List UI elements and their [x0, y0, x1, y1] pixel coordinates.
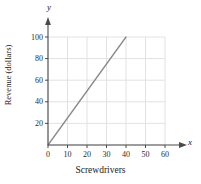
y-tick-label-40: 40: [22, 98, 43, 106]
x-axis-symbol: x: [188, 137, 192, 147]
y-tick-label-60: 60: [22, 77, 43, 85]
x-tick-label-0: 0: [38, 151, 58, 159]
y-axis-title-container: Revenue (dollars): [0, 0, 16, 150]
revenue-screwdrivers-chart: 20 40 60 80 100 0 10 20 30 40 50 60 Reve…: [0, 0, 201, 184]
x-tick-label-10: 10: [58, 151, 78, 159]
y-tick-label-20: 20: [22, 120, 43, 128]
x-tick-label-60: 60: [155, 151, 175, 159]
x-tick-label-50: 50: [136, 151, 156, 159]
grid-lines: [48, 37, 165, 145]
y-tick-label-100: 100: [22, 34, 43, 42]
y-axis-arrowhead: [45, 17, 51, 25]
x-axis-title: Screwdrivers: [0, 165, 201, 175]
x-tick-label-40: 40: [116, 151, 136, 159]
x-axis-arrowhead: [179, 142, 187, 148]
y-tick-label-80: 80: [22, 55, 43, 63]
y-axis-symbol: y: [47, 2, 51, 12]
x-tick-label-20: 20: [77, 151, 97, 159]
x-tick-label-30: 30: [97, 151, 117, 159]
y-axis-title: Revenue (dollars): [3, 45, 13, 106]
